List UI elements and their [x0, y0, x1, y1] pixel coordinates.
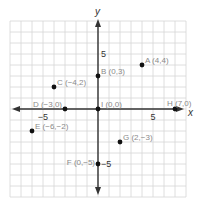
y-axis-arrow-down-icon: [95, 187, 101, 195]
y-tick-label: 5: [101, 49, 106, 59]
x-tick-label: −5: [38, 112, 48, 122]
point-e: E (−6,−2): [30, 122, 69, 133]
point-c: C (−4,2): [52, 78, 87, 89]
point-label: F (0,−5): [67, 158, 96, 167]
point-marker-icon: [118, 140, 123, 145]
y-axis-arrow-up-icon: [95, 19, 101, 27]
point-b: B (0,3): [96, 67, 126, 78]
point-label: I (0,0): [101, 100, 122, 109]
x-tick-label: 5: [150, 112, 155, 122]
point-g: G (2,−3): [118, 133, 153, 144]
y-tick-label: −5: [101, 159, 111, 169]
point-marker-icon: [140, 63, 145, 68]
x-axis-label: x: [187, 107, 194, 118]
point-label: C (−4,2): [57, 78, 86, 87]
point-marker-icon: [52, 85, 57, 90]
point-label: G (2,−3): [123, 133, 153, 142]
point-a: A (4,4): [140, 56, 169, 67]
coordinate-plane: x y −555−5 A (4,4)B (0,3)C (−4,2)D (−3,0…: [0, 0, 209, 203]
x-axis-arrow-left-icon: [12, 106, 20, 112]
point-label: A (4,4): [145, 56, 169, 65]
coordinate-plane-svg: x y −555−5 A (4,4)B (0,3)C (−4,2)D (−3,0…: [0, 0, 209, 203]
point-marker-icon: [30, 129, 35, 134]
point-marker-icon: [63, 107, 68, 112]
point-marker-icon: [96, 74, 101, 79]
point-marker-icon: [96, 107, 101, 112]
point-label: B (0,3): [101, 67, 125, 76]
point-label: D (−3,0): [33, 100, 62, 109]
point-label: H (7,0): [167, 99, 192, 108]
point-f: F (0,−5): [67, 158, 101, 167]
y-axis-label: y: [94, 6, 101, 17]
point-label: E (−6,−2): [35, 122, 69, 131]
point-marker-icon: [96, 162, 101, 167]
